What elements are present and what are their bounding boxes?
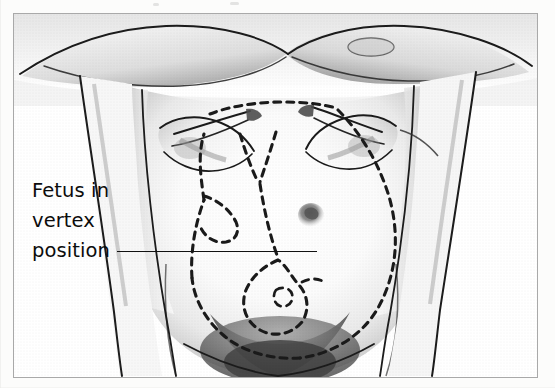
- top-crop-artifact: [230, 2, 239, 5]
- figure-page: Fetus in vertex position: [0, 0, 555, 388]
- illustration-frame: Fetus in vertex position: [13, 13, 538, 378]
- annotation-leader-line: [117, 251, 317, 252]
- top-crop-artifact: [153, 3, 159, 6]
- annotation-line-2: vertex: [32, 206, 124, 236]
- annotation-line-3: position: [32, 236, 124, 266]
- annotation-label: Fetus in vertex position: [32, 176, 124, 266]
- annotation-line-1: Fetus in: [32, 176, 124, 206]
